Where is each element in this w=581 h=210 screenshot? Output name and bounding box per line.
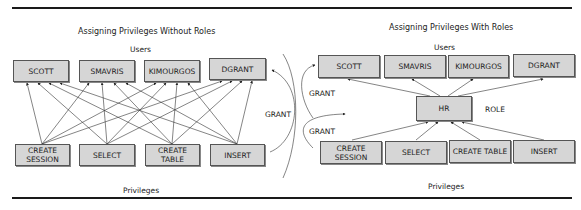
- right-user-scott-label: SCOTT: [337, 62, 362, 71]
- right-users-label: Users: [434, 43, 455, 52]
- left-diagram-title: Assigning Privileges Without Roles: [78, 27, 215, 36]
- right-privilege-insert-label: INSERT: [531, 147, 558, 156]
- right-user-smavris-label: SMAVRIS: [398, 62, 431, 71]
- right-privileges-label: Privileges: [428, 182, 464, 191]
- left-grant-label: GRANT: [265, 110, 291, 119]
- right-privilege-insert: INSERT: [513, 140, 575, 163]
- left-user-dgrant-label: DGRANT: [222, 65, 254, 74]
- right-privilege-create-session-label: CREATE SESSION: [321, 144, 381, 162]
- left-user-dgrant: DGRANT: [209, 58, 266, 80]
- left-privilege-insert: INSERT: [210, 144, 265, 166]
- left-privilege-create-table-label: CREATE TABLE: [146, 146, 199, 164]
- left-privilege-create-table: CREATE TABLE: [145, 144, 200, 166]
- left-users-label: Users: [130, 45, 151, 54]
- right-privilege-create-table-label: CREATE TABLE: [453, 147, 508, 156]
- role-label: ROLE: [485, 105, 505, 114]
- right-user-scott: SCOTT: [318, 55, 380, 78]
- left-user-scott: SCOTT: [13, 60, 69, 82]
- right-user-dgrant-label: DGRANT: [528, 61, 560, 70]
- left-privilege-select: SELECT: [79, 144, 135, 166]
- left-privilege-insert-label: INSERT: [224, 151, 251, 160]
- left-user-smavris: SMAVRIS: [79, 60, 135, 82]
- left-user-scott-label: SCOTT: [29, 67, 54, 76]
- right-grant-bottom-label: GRANT: [309, 127, 335, 136]
- role-hr: HR: [416, 96, 472, 121]
- right-privilege-create-session: CREATE SESSION: [320, 141, 382, 164]
- role-hr-label: HR: [439, 104, 450, 113]
- right-user-kimourgos-label: KIMOURGOS: [455, 62, 502, 71]
- left-privilege-create-session: CREATE SESSION: [15, 144, 70, 166]
- left-privilege-create-session-label: CREATE SESSION: [16, 146, 69, 164]
- right-user-smavris: SMAVRIS: [384, 55, 446, 78]
- left-privilege-select-label: SELECT: [93, 151, 121, 160]
- right-user-dgrant: DGRANT: [513, 54, 575, 77]
- left-user-kimourgos-label: KIMOURGOS: [149, 67, 196, 76]
- left-user-smavris-label: SMAVRIS: [90, 67, 123, 76]
- left-privileges-label: Privileges: [123, 186, 159, 195]
- right-user-kimourgos: KIMOURGOS: [448, 55, 509, 78]
- right-grant-top-label: GRANT: [309, 89, 335, 98]
- left-user-kimourgos: KIMOURGOS: [144, 60, 200, 82]
- right-privilege-select: SELECT: [385, 141, 447, 164]
- right-privilege-select-label: SELECT: [402, 148, 430, 157]
- right-diagram-title: Assigning Privileges With Roles: [389, 23, 513, 32]
- right-privilege-create-table: CREATE TABLE: [449, 140, 511, 163]
